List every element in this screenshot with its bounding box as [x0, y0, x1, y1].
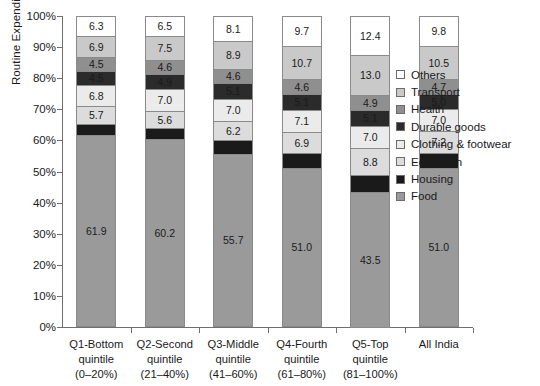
bar-segment[interactable]: 3.6	[145, 128, 185, 139]
bar-segment[interactable]: 4.5	[76, 71, 116, 85]
bar-segment[interactable]: 6.9	[282, 132, 322, 153]
bar-segment[interactable]: 4.6	[213, 69, 253, 83]
bar-segment[interactable]: 4.6	[145, 60, 185, 74]
bar-segment[interactable]: 6.8	[76, 85, 116, 106]
bar-segment[interactable]: 7.0	[213, 99, 253, 121]
bar-segment-value: 4.8	[294, 156, 309, 167]
y-axis-tick-label: 80%	[14, 72, 56, 84]
legend-swatch-icon	[396, 105, 405, 114]
legend-swatch-icon	[396, 140, 405, 149]
bar-segment[interactable]: 6.9	[76, 36, 116, 57]
y-axis-tick-mark	[57, 296, 62, 297]
bar-segment[interactable]: 51.0	[282, 168, 322, 327]
legend-item[interactable]: Education	[396, 153, 540, 170]
y-axis-tick-mark	[57, 327, 62, 328]
bar-stack[interactable]: 6.57.54.64.97.05.63.660.2	[145, 16, 185, 327]
bar-segment[interactable]: 4.6	[282, 79, 322, 93]
bar-segment-value: 6.9	[89, 42, 104, 53]
legend-item[interactable]: Food	[396, 188, 540, 205]
legend-swatch-icon	[396, 157, 405, 166]
bar-segment[interactable]: 4.8	[282, 153, 322, 168]
legend: OthersTransportHealthDurable goodsClothi…	[396, 66, 540, 205]
y-axis-tick-label: 30%	[14, 228, 56, 240]
bar-stack[interactable]: 12.413.04.95.17.08.85.543.5	[350, 16, 390, 327]
bar-segment[interactable]: 12.4	[350, 16, 390, 55]
bar-segment[interactable]: 8.9	[213, 41, 253, 69]
y-axis-tick-label: 70%	[14, 103, 56, 115]
bar-segment[interactable]: 9.8	[419, 16, 459, 46]
bar-segment[interactable]: 60.2	[145, 139, 185, 326]
bar-segment-value: 55.7	[223, 235, 243, 246]
legend-label: Food	[411, 190, 437, 202]
y-axis-tick-label: 20%	[14, 259, 56, 271]
y-axis-tick-mark	[57, 234, 62, 235]
bar-segment[interactable]: 4.5	[76, 57, 116, 71]
bar-segment[interactable]: 9.7	[282, 16, 322, 46]
bar-segment[interactable]: 6.3	[76, 16, 116, 36]
bar-segment[interactable]: 55.7	[213, 154, 253, 327]
y-axis-tick-mark	[57, 16, 62, 17]
legend-label: Health	[411, 103, 444, 115]
legend-item[interactable]: Health	[396, 101, 540, 118]
legend-label: Housing	[411, 173, 453, 185]
bar-segment[interactable]: 5.7	[76, 106, 116, 124]
bar-segment[interactable]: 7.5	[145, 36, 185, 59]
bar-segment[interactable]: 43.5	[350, 192, 390, 327]
bar-segment-value: 51.0	[429, 242, 449, 253]
bar-segment-value: 5.6	[157, 115, 172, 126]
bar-segment[interactable]: 5.6	[145, 111, 185, 128]
bar-segment-value: 5.5	[363, 179, 378, 190]
y-axis-tick-mark	[57, 265, 62, 266]
bar-segment-value: 4.6	[294, 82, 309, 93]
legend-swatch-icon	[396, 192, 405, 201]
legend-item[interactable]: Housing	[396, 170, 540, 187]
bar-segment-value: 4.4	[226, 142, 241, 153]
bar-segment[interactable]: 4.9	[350, 95, 390, 110]
bar-segment-value: 5.1	[363, 113, 378, 124]
legend-item[interactable]: Clothing & footwear	[396, 136, 540, 153]
bar-segment[interactable]: 10.7	[282, 46, 322, 79]
bar-segment[interactable]: 6.2	[213, 121, 253, 140]
bar-segment[interactable]: 5.1	[213, 83, 253, 99]
bar-segment-value: 8.8	[363, 157, 378, 168]
bar-stack[interactable]: 8.18.94.65.17.06.24.455.7	[213, 16, 253, 327]
y-axis-tick-label: 60%	[14, 134, 56, 146]
bar-segment[interactable]: 7.1	[282, 110, 322, 132]
bar-segment[interactable]: 7.0	[350, 126, 390, 148]
bar-segment-value: 3.6	[157, 129, 172, 139]
bar-segment-value: 9.7	[294, 26, 309, 37]
bar-stack[interactable]: 9.710.74.65.17.16.94.851.0	[282, 16, 322, 327]
bar-segment[interactable]: 8.1	[213, 16, 253, 41]
bar-stack[interactable]: 6.36.94.54.56.85.73.561.9	[76, 16, 116, 327]
y-axis-tick-mark	[57, 47, 62, 48]
bar-segment-value: 7.5	[157, 43, 172, 54]
legend-item[interactable]: Transport	[396, 83, 540, 100]
x-axis-tick-mark	[268, 328, 269, 333]
y-axis-tick-mark	[57, 109, 62, 110]
bar-segment[interactable]: 4.4	[213, 140, 253, 154]
legend-label: Transport	[411, 86, 460, 98]
bar-segment[interactable]: 5.1	[350, 110, 390, 126]
bar-segment[interactable]: 4.9	[145, 74, 185, 89]
bar-segment[interactable]: 5.5	[350, 175, 390, 192]
bar-segment-value: 6.9	[294, 138, 309, 149]
bar-segment[interactable]: 61.9	[76, 135, 116, 328]
bar-segment-value: 60.2	[155, 228, 175, 239]
bar-segment-value: 7.1	[294, 116, 309, 127]
bar-segment-value: 4.6	[157, 62, 172, 73]
bar-segment[interactable]: 8.8	[350, 148, 390, 175]
bar-segment[interactable]: 5.1	[282, 94, 322, 110]
bar-segment-value: 8.1	[226, 24, 241, 35]
y-axis-tick-mark	[57, 140, 62, 141]
legend-item[interactable]: Durable goods	[396, 118, 540, 135]
legend-item[interactable]: Others	[396, 66, 540, 83]
x-axis-tick-mark	[199, 328, 200, 333]
bar-segment[interactable]: 13.0	[350, 55, 390, 95]
bar-segment-value: 7.0	[363, 132, 378, 143]
bar-segment[interactable]: 6.5	[145, 16, 185, 36]
bar-segment-value: 10.7	[292, 58, 312, 69]
y-axis-tick-labels: 100%90%80%70%60%50%40%30%20%10%0%	[0, 0, 56, 386]
bar-segment-value: 13.0	[360, 70, 380, 81]
bar-segment[interactable]: 7.0	[145, 89, 185, 111]
bar-segment[interactable]: 3.5	[76, 124, 116, 135]
